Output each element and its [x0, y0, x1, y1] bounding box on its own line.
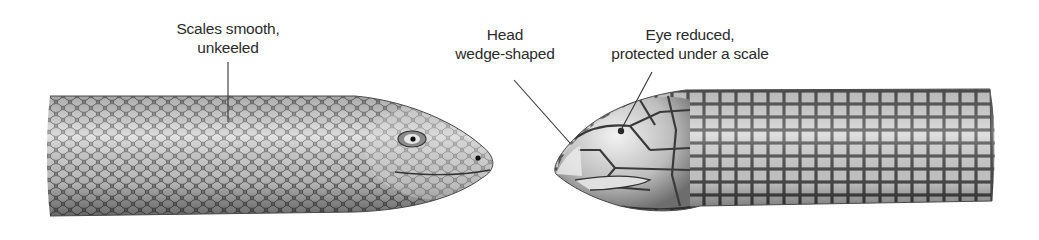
- right-specimen-body: [540, 80, 1000, 215]
- label-line: unkeeled: [142, 38, 314, 57]
- label-line: Eye reduced,: [595, 25, 785, 44]
- label-eye-reduced: Eye reduced, protected under a scale: [595, 25, 785, 63]
- label-line: Head: [440, 25, 570, 44]
- label-line: wedge-shaped: [440, 44, 570, 63]
- label-line: Scales smooth,: [142, 19, 314, 38]
- left-specimen-eye: [398, 131, 426, 147]
- left-specimen-body: [40, 90, 515, 220]
- nostril-icon: [475, 155, 480, 160]
- right-specimen-eye: [618, 128, 624, 134]
- label-head-wedge-shaped: Head wedge-shaped: [440, 25, 570, 63]
- label-scales-smooth: Scales smooth, unkeeled: [142, 19, 314, 57]
- illustration: Scales smooth, unkeeled Head wedge-shape…: [0, 0, 1039, 240]
- leader-line-head: [514, 80, 570, 143]
- label-line: protected under a scale: [595, 44, 785, 63]
